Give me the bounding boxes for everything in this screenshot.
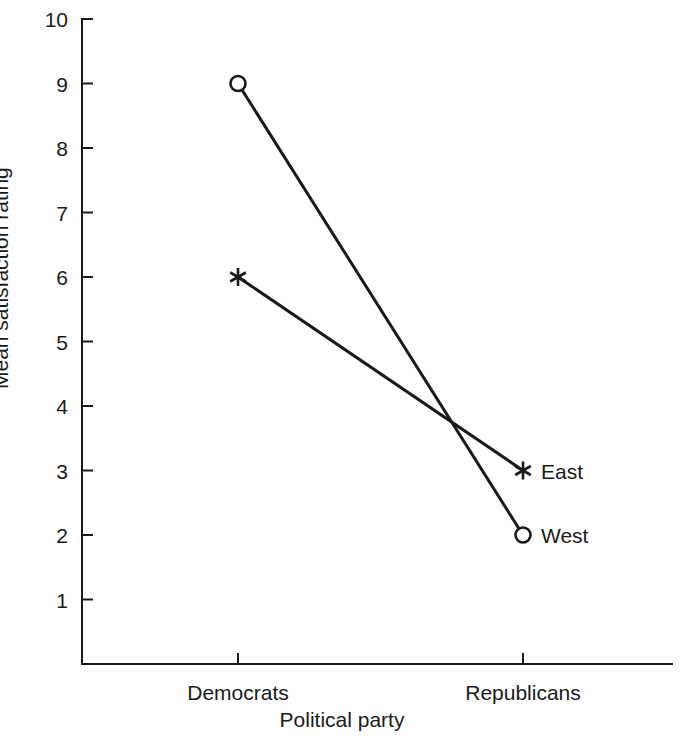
plot-area — [0, 0, 684, 740]
series-line — [238, 277, 523, 471]
y-tick-label: 8 — [0, 138, 68, 159]
x-tick-label: Republicans — [465, 682, 581, 703]
x-tick-label: Democrats — [187, 682, 289, 703]
series-label-west: West — [541, 525, 588, 546]
star-marker — [515, 462, 531, 480]
series-line — [238, 84, 523, 536]
y-tick-label: 4 — [0, 396, 68, 417]
data-series — [230, 268, 531, 480]
y-tick-label: 10 — [0, 9, 68, 30]
series-label-east: East — [541, 460, 583, 481]
open-circle-marker — [516, 528, 531, 543]
axes — [81, 19, 672, 665]
y-tick-label: 1 — [0, 589, 68, 610]
line-chart: 12345678910 DemocratsRepublicans EastWes… — [0, 0, 684, 740]
y-tick-label: 9 — [0, 73, 68, 94]
star-marker — [230, 268, 246, 286]
axis-lines — [82, 19, 672, 664]
x-axis-title: Political party — [280, 709, 405, 730]
data-series-group — [230, 76, 531, 543]
y-tick-label: 3 — [0, 460, 68, 481]
y-axis-title: Mean satisfaction rating — [0, 167, 11, 391]
open-circle-marker — [231, 76, 246, 91]
data-series — [231, 76, 531, 543]
y-tick-label: 2 — [0, 525, 68, 546]
